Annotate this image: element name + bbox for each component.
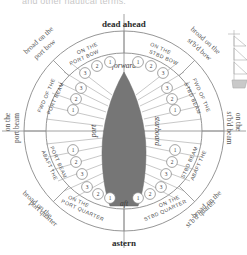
marker-port-bow-3: 3 [80,68,91,79]
svg-text:3: 3 [81,171,84,177]
svg-text:2: 2 [171,96,174,102]
svg-text:3: 3 [86,184,89,190]
astern-label: astern [112,238,136,248]
starboard-label: starboard [153,116,162,146]
marker-abaft-stbd-beam-1: 1 [170,145,181,156]
sailing-ship-vignette [228,30,247,88]
marker-fwd-port-beam-2: 2 [71,94,82,105]
svg-text:2: 2 [96,63,99,69]
svg-text:3: 3 [166,85,169,91]
svg-text:3: 3 [80,85,83,91]
svg-text:1: 1 [137,59,140,65]
outer-label-stbd-beam-line1: on the [234,113,243,132]
marker-port-quarter-3: 3 [82,182,93,193]
marker-fwd-stbd-beam-3: 3 [162,83,173,94]
dead-ahead-label: dead ahead [102,19,146,29]
svg-text:2: 2 [97,191,100,197]
svg-text:1: 1 [174,147,177,153]
outer-label-port-beam-line1: on the [3,112,12,131]
svg-text:2: 2 [149,191,152,197]
diagram-canvas: dead ahead astern forward aft port starb… [0,0,247,255]
marker-fwd-stbd-beam-1: 1 [170,105,181,116]
svg-text:1: 1 [137,195,140,201]
marker-stbd-quarter-3: 3 [156,182,167,193]
svg-text:3: 3 [160,184,163,190]
marker-fwd-stbd-beam-2: 2 [167,94,178,105]
marker-abaft-port-beam-1: 1 [68,145,79,156]
svg-text:2: 2 [75,159,78,165]
svg-text:2: 2 [171,159,174,165]
marker-fwd-port-beam-1: 1 [68,105,79,116]
marker-abaft-stbd-beam-3: 3 [161,169,172,180]
svg-text:3: 3 [162,70,165,76]
marker-stbd-bow-2: 2 [146,61,157,72]
marker-port-quarter-2: 2 [93,189,104,200]
marker-abaft-stbd-beam-2: 2 [167,157,178,168]
marker-abaft-port-beam-2: 2 [71,157,82,168]
marker-stbd-quarter-1: 1 [133,193,144,204]
port-label: port [89,124,98,139]
relative-bearing-diagram: and other nautical terms. [0,0,247,255]
marker-stbd-bow-3: 3 [158,68,169,79]
svg-text:3: 3 [84,70,87,76]
marker-port-bow-2: 2 [92,61,103,72]
svg-text:1: 1 [72,147,75,153]
svg-text:3: 3 [165,171,168,177]
marker-fwd-port-beam-3: 3 [76,83,87,94]
marker-abaft-port-beam-3: 3 [77,169,88,180]
svg-text:2: 2 [75,96,78,102]
truncated-caption: and other nautical terms. [22,0,126,6]
svg-text:2: 2 [150,63,153,69]
outer-label-stbd-beam-line2: st'b'd beam [225,112,234,145]
marker-stbd-bow-1: 1 [133,57,144,68]
marker-port-quarter-1: 1 [105,193,116,204]
outer-label-port-beam-line2: port beam [12,113,21,143]
svg-text:1: 1 [109,195,112,201]
marker-port-bow-1: 1 [105,57,116,68]
svg-text:1: 1 [109,59,112,65]
svg-text:1: 1 [174,107,177,113]
svg-text:1: 1 [72,107,75,113]
marker-stbd-quarter-2: 2 [145,189,156,200]
aft-label: aft [120,199,129,208]
